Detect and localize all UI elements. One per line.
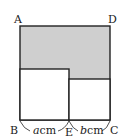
segment-EC-label: bcm [80,124,104,137]
label-E: E [65,126,73,139]
square-side-a [20,69,69,120]
label-C: C [110,124,118,137]
label-D: D [108,13,117,26]
segment-BE-label: acm [33,124,57,137]
square-side-b [69,79,110,120]
label-B: B [10,124,18,137]
label-A: A [13,13,23,26]
geometry-diagram: A D B E C acm bcm [0,0,129,139]
